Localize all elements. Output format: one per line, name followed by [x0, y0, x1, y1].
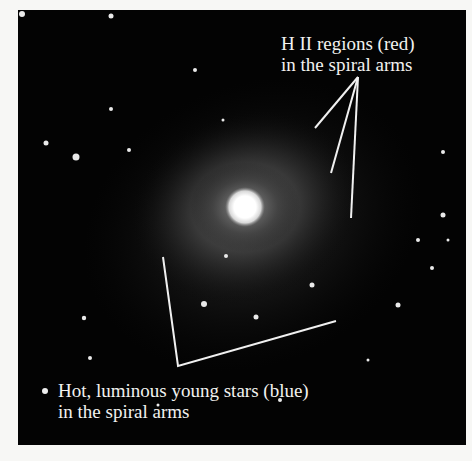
- galaxy-nucleus: [225, 187, 265, 227]
- young-stars-label-line2: in the spiral arms: [58, 401, 309, 422]
- young-stars-label: Hot, luminous young stars (blue) in the …: [58, 380, 309, 422]
- hii-regions-label-line1: H II regions (red): [281, 33, 414, 54]
- bullet-icon: [42, 388, 48, 394]
- hii-regions-label: H II regions (red) in the spiral arms: [281, 33, 414, 75]
- galaxy-photo: H II regions (red) in the spiral arms Ho…: [18, 10, 466, 445]
- hii-regions-label-line2: in the spiral arms: [281, 54, 414, 75]
- young-stars-label-line1: Hot, luminous young stars (blue): [58, 380, 309, 401]
